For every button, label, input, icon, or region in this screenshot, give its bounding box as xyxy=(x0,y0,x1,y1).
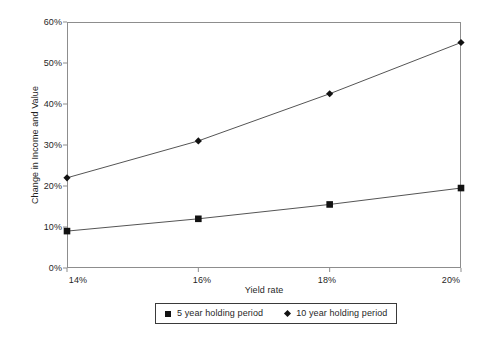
x-tick-label-14: 14% xyxy=(48,276,108,285)
chart-legend: 5 year holding period 10 year holding pe… xyxy=(155,303,397,324)
x-tick-label-18: 18% xyxy=(297,276,357,285)
plot-area xyxy=(67,22,461,268)
x-axis-title: Yield rate xyxy=(67,285,461,295)
diamond-marker-icon xyxy=(284,310,291,317)
x-tick-label-16: 16% xyxy=(172,276,232,285)
y-axis-title: Change in Income and Value xyxy=(30,22,40,268)
legend-item-5-year: 5 year holding period xyxy=(165,309,263,318)
x-tick-label-20: 20% xyxy=(421,276,481,285)
square-marker-icon xyxy=(165,311,171,317)
legend-label-10-year: 10 year holding period xyxy=(296,309,387,318)
line-chart: 60% 50% 40% 30% 20% 10% 0% 14% 16% 18% 2… xyxy=(0,0,487,349)
legend-item-10-year: 10 year holding period xyxy=(285,309,387,318)
legend-label-5-year: 5 year holding period xyxy=(177,309,263,318)
